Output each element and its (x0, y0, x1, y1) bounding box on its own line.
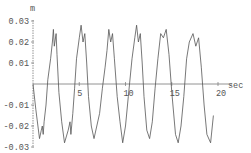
y-tick-label: 0.02 (9, 38, 29, 48)
line-chart: 51015200.030.020.01-0.01-0.02-0.03 m sec (0, 0, 251, 153)
y-axis-label: m (30, 4, 35, 14)
axes (31, 20, 232, 148)
x-tick-label: 5 (77, 89, 82, 99)
y-tick-label: 0.01 (9, 59, 29, 69)
x-tick-label: 20 (216, 89, 226, 99)
y-tick-label: -0.02 (3, 122, 29, 132)
y-tick-label: -0.03 (3, 143, 29, 153)
y-tick-label: -0.01 (3, 101, 29, 111)
y-tick-label: 0.03 (9, 17, 29, 27)
x-axis-label: sec (228, 81, 243, 91)
tick-labels: 51015200.030.020.01-0.01-0.02-0.03 (3, 17, 226, 153)
